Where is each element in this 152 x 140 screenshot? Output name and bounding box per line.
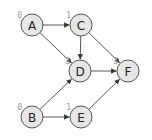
node-b: B0 (17, 103, 43, 128)
node-label: A (28, 19, 37, 33)
node-label: E (77, 111, 85, 125)
node-rank-label: 1 (66, 11, 71, 20)
node-a: A0 (17, 11, 43, 36)
node-rank-label: 0 (17, 11, 22, 20)
node-label: B (28, 111, 36, 125)
node-label: F (125, 65, 132, 79)
node-rank-label: 1 (66, 103, 71, 112)
node-c: C1 (66, 11, 92, 36)
node-rank-label: 3 (113, 57, 118, 66)
node-f: F3 (113, 57, 139, 82)
nodes-layer: A0C1D3F3B0E1 (17, 11, 139, 128)
edge-e-f (89, 79, 120, 109)
node-d: D3 (65, 57, 91, 82)
node-rank-label: 0 (17, 103, 22, 112)
node-label: D (75, 65, 84, 79)
node-rank-label: 3 (65, 57, 70, 66)
dag-diagram: A0C1D3F3B0E1 (0, 0, 152, 140)
node-label: C (77, 19, 85, 33)
edge-c-d (80, 36, 81, 60)
node-e: E1 (66, 103, 92, 128)
